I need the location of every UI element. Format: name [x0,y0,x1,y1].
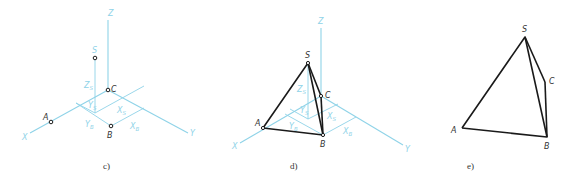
x-axis-label: X [231,142,238,151]
point-a-label: A [450,126,456,135]
point-s-label: S [305,51,310,60]
panel-c: Z X Y S C A B ZS YS XS YB XB c) [21,9,196,171]
xb-label: XB [342,127,352,137]
z-axis-label: Z [317,17,324,26]
point-b-label: B [544,142,550,151]
x-axis-label: X [21,133,28,142]
ys-label: YS [88,101,97,111]
edge-a-s-b [462,37,547,137]
point-c-label: C [111,85,117,94]
point-a-label: A [254,119,260,128]
point-b [109,124,113,128]
xb-label: XB [129,122,139,132]
yb-label: YB [85,120,94,130]
yb-label: YB [289,122,298,132]
y-axis-label: Y [405,145,411,154]
point-a [49,120,53,124]
point-b [321,133,324,136]
point-s [306,61,309,64]
zs-label: ZS [83,81,93,91]
axonometric-pyramid-figure: Z X Y S C A B ZS YS XS YB XB c) Z X Y S … [0,0,570,179]
zs-label: ZS [296,85,306,95]
caption-d: d) [290,161,298,171]
edge-s-c [525,37,545,82]
caption-c: c) [103,161,110,171]
point-c [319,94,322,97]
caption-e: e) [467,161,474,171]
point-s-label: S [522,25,527,34]
point-c [106,88,110,92]
point-c-label: C [325,91,331,100]
point-s [93,56,97,60]
panel-d: Z X Y S C A B ZS YS XS YB XB d) [231,17,411,171]
point-s-label: S [92,46,97,55]
xs-label: XS [116,106,126,116]
point-b-label: B [107,131,113,140]
x-axis [30,90,108,133]
panel-e: S C A B e) [450,25,555,171]
xs-label: XS [326,112,336,122]
y-axis-label: Y [190,129,196,138]
point-a [261,126,264,129]
z-axis-label: Z [107,9,114,18]
figure-canvas: Z X Y S C A B ZS YS XS YB XB c) Z X Y S … [0,0,570,179]
point-b-label: B [320,140,326,149]
point-a-label: A [42,113,48,122]
point-c-label: C [549,77,555,86]
